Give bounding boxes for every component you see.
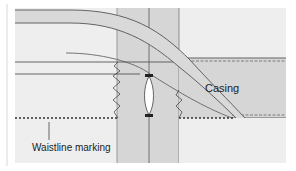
lower-right-panel bbox=[179, 118, 286, 163]
bar-tack-bottom bbox=[145, 114, 153, 117]
waistline-marking-label: Waistline marking bbox=[32, 142, 111, 153]
casing-label: Casing bbox=[205, 82, 239, 94]
diagram-stage: Casing Waistline marking bbox=[0, 0, 296, 171]
bar-tack-top bbox=[145, 74, 153, 77]
